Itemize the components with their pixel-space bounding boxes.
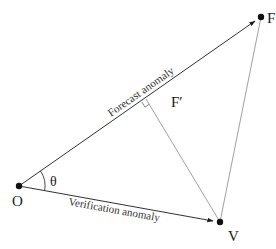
label-f-prime: F′ xyxy=(171,94,183,110)
label-v: V xyxy=(228,228,239,244)
label-forecast-anomaly: Forecast anomaly xyxy=(105,64,176,119)
point-v xyxy=(217,219,223,225)
point-o xyxy=(16,183,22,189)
error-vector-line xyxy=(220,17,261,222)
theta-angle-arc xyxy=(41,171,46,191)
point-f xyxy=(258,14,264,20)
perpendicular-line xyxy=(146,99,220,222)
label-f: F xyxy=(267,10,275,26)
label-verification-anomaly: Verification anomaly xyxy=(68,195,162,223)
forecast-anomaly-vector xyxy=(19,21,255,186)
label-theta: θ xyxy=(50,174,57,189)
label-o: O xyxy=(12,193,23,209)
vector-diagram: O F V F′ θ Forecast anomaly Verification… xyxy=(0,0,276,249)
